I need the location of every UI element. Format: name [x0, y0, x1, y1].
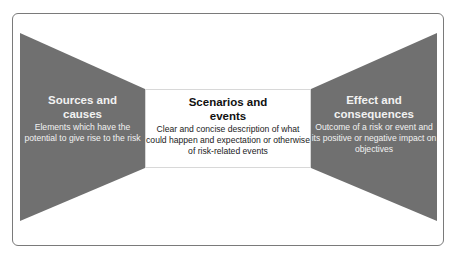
sources-title-line2: causes — [20, 107, 145, 121]
sources-title: Sources and causes — [20, 93, 145, 121]
sources-and-causes-panel: Sources and causes Elements which have t… — [20, 93, 145, 144]
effect-title-line1: Effect and — [311, 93, 437, 107]
sources-description: Elements which have the potential to giv… — [20, 122, 145, 144]
effect-title-line2: consequences — [311, 107, 437, 121]
effect-title: Effect and consequences — [311, 93, 437, 121]
sources-title-line1: Sources and — [20, 93, 145, 107]
scenarios-title-line2: events — [146, 109, 310, 123]
scenarios-and-events-box: Scenarios and events Clear and concise d… — [145, 89, 311, 168]
effect-and-consequences-panel: Effect and consequences Outcome of a ris… — [311, 93, 437, 155]
scenarios-description: Clear and concise description of what co… — [146, 124, 310, 157]
scenarios-title-line1: Scenarios and — [146, 95, 310, 109]
scenarios-title: Scenarios and events — [146, 95, 310, 123]
effect-description: Outcome of a risk or event and its posit… — [311, 122, 437, 155]
